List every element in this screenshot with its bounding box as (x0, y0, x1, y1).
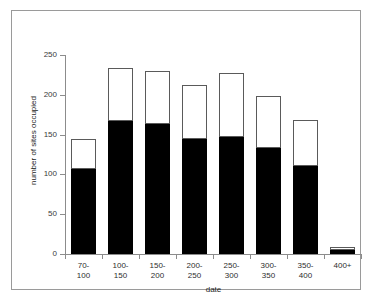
bar-segment-lower (145, 124, 170, 254)
bar-segment-lower (219, 137, 244, 254)
y-axis-tick-label: 150 (32, 130, 57, 139)
figure-frame: number of sites occupied 050100150200250… (11, 10, 361, 290)
bar-segment-upper (293, 120, 318, 165)
bar-segment-upper (108, 68, 133, 121)
bar-segment-upper (71, 139, 96, 168)
y-axis-tick-label: 250 (32, 50, 57, 59)
bar-segment-upper (182, 85, 207, 138)
x-axis-tick-label: 400+ (320, 261, 366, 271)
x-axis-tick (65, 254, 66, 259)
x-axis-tick (287, 254, 288, 259)
x-axis-tick (176, 254, 177, 259)
x-axis-tick (250, 254, 251, 259)
bar-segment-lower (108, 121, 133, 254)
bar-segment-lower (71, 169, 96, 254)
x-axis-tick (102, 254, 103, 259)
bar-segment-lower (256, 148, 281, 254)
bar-segment-lower (182, 139, 207, 254)
y-axis-tick-label: 100 (32, 169, 57, 178)
x-axis-tick (139, 254, 140, 259)
y-axis-tick-label: 50 (32, 209, 57, 218)
bar-segment-lower (330, 250, 355, 254)
bar-segment-upper (256, 96, 281, 149)
x-axis-title: date (65, 285, 362, 294)
plot-area (65, 55, 361, 254)
bar-segment-lower (293, 166, 318, 254)
y-axis-tick-label: 0 (32, 249, 57, 258)
chart-figure: number of sites occupied 050100150200250… (0, 0, 374, 303)
bar-segment-upper (145, 71, 170, 124)
bar-segment-upper (219, 73, 244, 137)
x-axis-tick (213, 254, 214, 259)
x-axis-tick (361, 254, 362, 259)
y-axis-tick-label: 200 (32, 90, 57, 99)
x-axis-tick (324, 254, 325, 259)
